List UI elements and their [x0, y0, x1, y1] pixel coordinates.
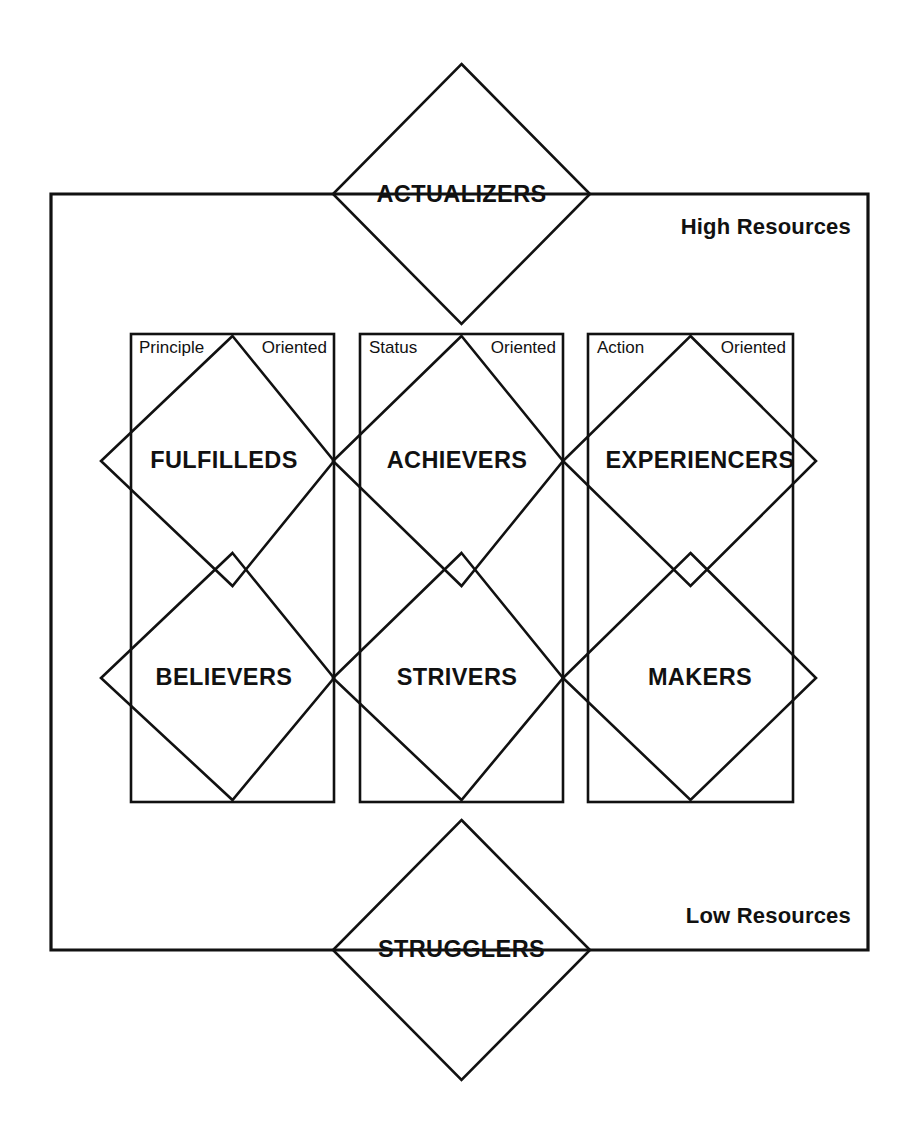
principle-orientation-suffix: Oriented: [262, 338, 327, 357]
resource-boundary-box: [51, 194, 868, 950]
experiencers-label: EXPERIENCERS: [606, 447, 795, 473]
high-resources-label: High Resources: [681, 214, 851, 239]
actualizers-label: ACTUALIZERS: [376, 181, 546, 207]
principle-orientation-word: Principle: [139, 338, 204, 357]
fulfilleds-label: FULFILLEDS: [150, 447, 298, 473]
status-orientation-suffix: Oriented: [491, 338, 556, 357]
strivers-label: STRIVERS: [397, 664, 518, 690]
low-resources-label: Low Resources: [686, 903, 851, 928]
strugglers-label: STRUGGLERS: [378, 936, 545, 962]
action-orientation-word: Action: [597, 338, 644, 357]
makers-label: MAKERS: [648, 664, 752, 690]
believers-label: BELIEVERS: [156, 664, 293, 690]
achievers-label: ACHIEVERS: [387, 447, 528, 473]
vals-framework-diagram: ACTUALIZERS High Resources Principle Ori…: [0, 0, 916, 1128]
action-orientation-suffix: Oriented: [721, 338, 786, 357]
status-orientation-word: Status: [369, 338, 417, 357]
